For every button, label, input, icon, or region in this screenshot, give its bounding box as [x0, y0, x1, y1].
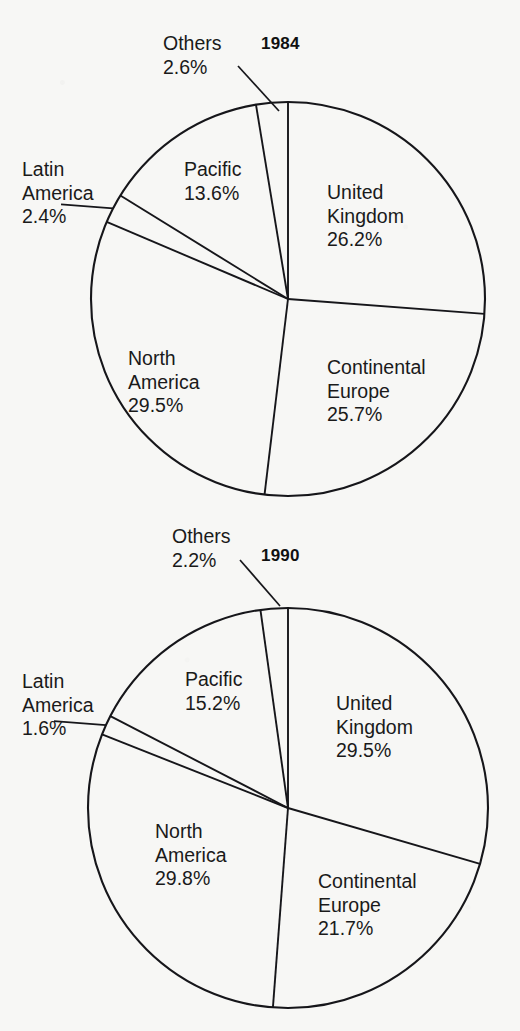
slice-divider-north-america	[265, 299, 288, 495]
slice-label-others-1984: Others 2.6%	[163, 32, 222, 79]
leader-line-others	[240, 560, 280, 606]
pie-chart-1984: 1984 Others 2.6% Latin America 2.4% Paci…	[0, 0, 520, 520]
slice-divider-pacific	[110, 716, 288, 808]
slice-label-pacific-value-1984: 13.6%	[184, 182, 241, 206]
slice-label-pacific-name-1990: Pacific	[185, 668, 242, 692]
slice-label-others-value-1990: 2.2%	[172, 549, 231, 573]
pie-chart-1990-graphic	[0, 520, 520, 1031]
slice-label-others-1990: Others 2.2%	[172, 525, 231, 572]
slice-divider-others	[260, 610, 288, 808]
slice-label-others-name-1990: Others	[172, 525, 231, 549]
slice-label-north-america-name2-1990: America	[155, 844, 227, 868]
slice-label-latin-america-name2-1984: America	[22, 182, 94, 206]
slice-divider-latin-america	[107, 222, 288, 299]
slice-label-united-kingdom-1990: United Kingdom 29.5%	[336, 692, 413, 763]
slice-label-continental-europe-1990: Continental Europe 21.7%	[318, 870, 417, 941]
slice-label-pacific-1984: Pacific 13.6%	[184, 158, 241, 205]
slice-label-north-america-value-1990: 29.8%	[155, 867, 227, 891]
pie-chart-1984-graphic	[0, 0, 520, 520]
slice-label-others-name-1984: Others	[163, 32, 222, 56]
slice-label-latin-america-1984: Latin America 2.4%	[22, 158, 94, 229]
slice-label-pacific-name-1984: Pacific	[184, 158, 241, 182]
slice-label-continental-europe-name1-1984: Continental	[327, 356, 426, 380]
slice-label-united-kingdom-1984: United Kingdom 26.2%	[327, 181, 404, 252]
slice-label-continental-europe-value-1984: 25.7%	[327, 403, 426, 427]
slice-label-north-america-name2-1984: America	[128, 371, 200, 395]
slice-label-north-america-name1-1990: North	[155, 820, 227, 844]
slice-label-united-kingdom-name1-1990: United	[336, 692, 413, 716]
slice-label-united-kingdom-name1-1984: United	[327, 181, 404, 205]
slice-divider-continental-europe	[288, 808, 480, 864]
slice-label-north-america-1984: North America 29.5%	[128, 347, 200, 418]
slice-label-north-america-1990: North America 29.8%	[155, 820, 227, 891]
slice-divider-pacific	[120, 196, 288, 299]
slice-label-continental-europe-1984: Continental Europe 25.7%	[327, 356, 426, 427]
slice-label-latin-america-value-1984: 2.4%	[22, 205, 94, 229]
chart-title-1990: 1990	[261, 546, 300, 566]
slice-label-united-kingdom-value-1990: 29.5%	[336, 739, 413, 763]
slice-label-continental-europe-name1-1990: Continental	[318, 870, 417, 894]
slice-label-latin-america-value-1990: 1.6%	[22, 717, 94, 741]
slice-divider-north-america	[273, 808, 288, 1007]
slice-label-united-kingdom-value-1984: 26.2%	[327, 228, 404, 252]
slice-divider-latin-america	[102, 734, 288, 808]
slice-label-continental-europe-name2-1984: Europe	[327, 380, 426, 404]
slice-label-continental-europe-name2-1990: Europe	[318, 894, 417, 918]
slice-label-pacific-value-1990: 15.2%	[185, 692, 242, 716]
slice-label-latin-america-1990: Latin America 1.6%	[22, 670, 94, 741]
slice-divider-continental-europe	[288, 299, 484, 314]
slice-label-north-america-value-1984: 29.5%	[128, 394, 200, 418]
slice-label-north-america-name1-1984: North	[128, 347, 200, 371]
slice-label-latin-america-name1-1990: Latin	[22, 670, 94, 694]
slice-label-continental-europe-value-1990: 21.7%	[318, 917, 417, 941]
pie-chart-page: { "page": { "background_color": "#f7f7f5…	[0, 0, 520, 1031]
slice-label-united-kingdom-name2-1984: Kingdom	[327, 205, 404, 229]
slice-label-others-value-1984: 2.6%	[163, 56, 222, 80]
slice-label-united-kingdom-name2-1990: Kingdom	[336, 716, 413, 740]
slice-divider-others	[256, 105, 288, 299]
slice-label-latin-america-name1-1984: Latin	[22, 158, 94, 182]
chart-title-1984: 1984	[261, 34, 300, 54]
slice-label-pacific-1990: Pacific 15.2%	[185, 668, 242, 715]
pie-chart-1990: 1990 Others 2.2% Latin America 1.6% Paci…	[0, 520, 520, 1031]
slice-label-latin-america-name2-1990: America	[22, 694, 94, 718]
